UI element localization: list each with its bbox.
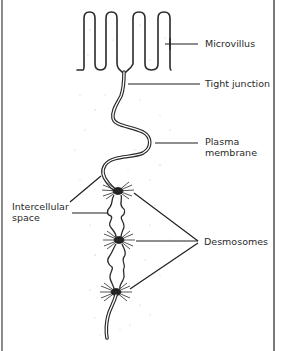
- label-plasma-membrane-line2: membrane: [205, 147, 257, 159]
- leader-lines: [70, 38, 200, 289]
- lower-membrane: [106, 295, 116, 338]
- label-intercellular-line1: Intercellular: [12, 201, 69, 213]
- label-tight-junction: Tight junction: [205, 78, 270, 90]
- label-microvillus: Microvillus: [205, 38, 255, 50]
- desmosome-leader-1: [134, 193, 198, 241]
- label-intercellular-line2: space: [12, 212, 40, 224]
- plasma-membrane: [103, 72, 150, 192]
- microvilli-outline: [77, 12, 171, 72]
- label-plasma-membrane-line1: Plasma: [205, 136, 239, 148]
- desmosome-leader-3: [130, 243, 198, 289]
- cell-junction-illustration: [0, 0, 281, 351]
- desmosome-1: [102, 182, 134, 199]
- label-desmosomes: Desmosomes: [204, 236, 268, 248]
- intercellular-leader-upper: [70, 176, 101, 202]
- desmosome-2: [103, 231, 135, 249]
